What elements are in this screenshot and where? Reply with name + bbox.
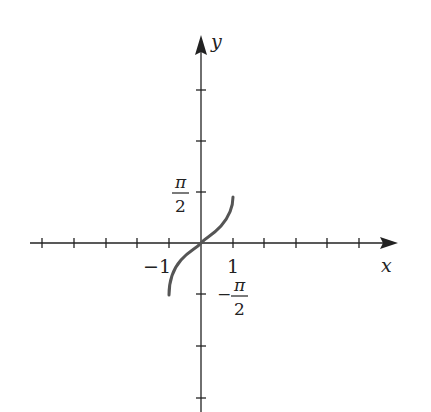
svg-text:π: π: [233, 275, 246, 295]
x-tick-label-1: 1: [227, 255, 239, 277]
svg-text:2: 2: [234, 299, 245, 319]
x-axis-label: x: [381, 254, 392, 276]
y-axis: [196, 52, 206, 412]
y-tick-label-neg-pi-over-2: − π 2: [217, 275, 248, 319]
y-axis-arrow-icon: [195, 35, 207, 55]
y-tick-label-pi-over-2: π 2: [172, 172, 189, 216]
svg-text:2: 2: [175, 196, 186, 216]
y-axis-label: y: [210, 30, 222, 52]
x-axis: [30, 238, 385, 248]
arcsin-chart: y x −1 1 π 2 − π 2: [0, 0, 431, 412]
svg-text:−: −: [217, 284, 231, 304]
svg-text:π: π: [174, 172, 187, 192]
x-tick-label-neg1: −1: [143, 255, 171, 277]
